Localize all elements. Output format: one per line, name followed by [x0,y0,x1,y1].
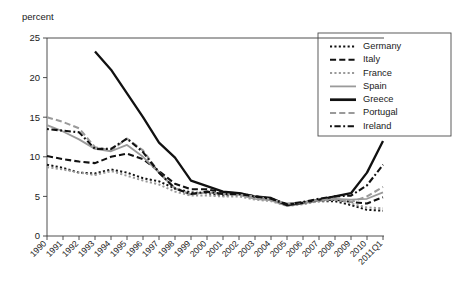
x-tick-label: 2009 [332,238,353,259]
x-tick-label: 1991 [44,238,65,259]
y-tick-label: 20 [29,72,40,83]
x-tick-label: 1993 [76,238,97,259]
chart-axes [47,38,384,236]
x-tick-label: 1994 [92,238,113,259]
legend-label-germany: Germany [363,41,402,51]
x-tick-label: 1990 [28,238,49,259]
x-tick-label: 2008 [316,238,337,259]
x-tick-labels: 1990199119921993199419951996199719981999… [28,236,385,267]
x-tick-label: 1999 [172,238,193,259]
x-tick-label: 1998 [156,238,177,259]
legend-label-spain: Spain [363,81,387,91]
y-axis-title-label: percent [22,11,54,22]
x-tick-label: 2007 [300,238,321,259]
series-line-greece [95,51,383,205]
y-axis-title: percent [22,11,54,22]
x-tick-label: 2000 [188,238,209,259]
y-tick-label: 10 [29,151,40,162]
axis-lines [47,38,384,236]
x-tick-label: 2004 [252,238,273,259]
x-tick-label: 2006 [284,238,305,259]
legend-label-france: France [363,68,392,78]
x-tick-label: 2001 [204,238,225,259]
x-tick-label: 2002 [220,238,241,259]
legend-label-portugal: Portugal [363,107,398,117]
legend-label-italy: Italy [363,54,380,64]
legend-label-greece: Greece [363,94,394,104]
chart-canvas: percent 0510152025 199019911992199319941… [0,0,456,295]
x-tick-label: 1996 [124,238,145,259]
y-tick-label: 15 [29,112,40,123]
y-tick-label: 25 [29,32,40,43]
x-tick-label: 1992 [60,238,81,259]
x-tick-label: 2003 [236,238,257,259]
legend-label-ireland: Ireland [363,121,391,131]
y-tick-labels: 0510152025 [29,32,47,241]
data-series-group [47,51,383,210]
chart-legend: GermanyItalyFranceSpainGreecePortugalIre… [318,33,451,136]
y-tick-label: 5 [35,191,40,202]
line-chart: percent 0510152025 199019911992199319941… [0,0,456,295]
x-tick-label: 2005 [268,238,289,259]
x-tick-label: 1997 [140,238,161,259]
x-tick-label: 1995 [108,238,129,259]
